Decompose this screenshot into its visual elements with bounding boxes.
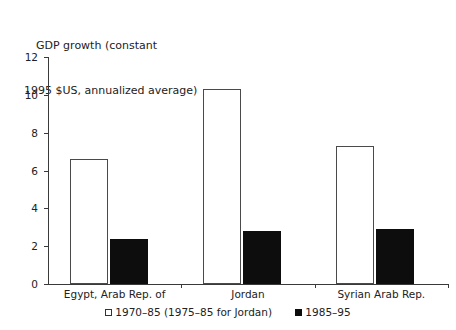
bar-0-0 (70, 159, 108, 284)
y-tick-4 (44, 208, 48, 209)
bar-1-1 (243, 231, 281, 284)
y-tick-10 (44, 95, 48, 96)
bar-0-1 (110, 239, 148, 284)
chart-title-line-1: GDP growth (constant (36, 38, 354, 53)
legend-item-0: 1970–85 (1975–85 for Jordan) (105, 306, 272, 318)
chart-legend: 1970–85 (1975–85 for Jordan) 1985–95 (0, 306, 456, 318)
bar-2-1 (376, 229, 414, 284)
legend-label-1: 1985–95 (305, 306, 350, 318)
y-tick-6 (44, 171, 48, 172)
legend-item-1: 1985–95 (295, 306, 350, 318)
category-label-2: Syrian Arab Rep. (337, 288, 425, 300)
y-tick-label-2: 2 (12, 240, 38, 252)
y-tick-12 (44, 57, 48, 58)
category-label-1: Jordan (231, 288, 264, 300)
y-tick-2 (44, 246, 48, 247)
y-tick-8 (44, 133, 48, 134)
x-separator-1 (315, 284, 316, 288)
legend-label-0: 1970–85 (1975–85 for Jordan) (115, 306, 272, 318)
y-tick-label-10: 10 (12, 89, 38, 101)
category-label-0: Egypt, Arab Rep. of (64, 288, 166, 300)
filled-square-icon (295, 309, 302, 316)
y-tick-label-4: 4 (12, 202, 38, 214)
y-tick-label-0: 0 (12, 278, 38, 290)
y-tick-0 (44, 284, 48, 285)
x-separator-2 (448, 284, 449, 288)
x-axis-line (48, 284, 448, 285)
y-tick-label-6: 6 (12, 165, 38, 177)
open-square-icon (105, 309, 112, 316)
y-axis-line (48, 57, 49, 284)
bar-1-0 (203, 89, 241, 284)
x-separator-0 (181, 284, 182, 288)
bar-2-0 (336, 146, 374, 284)
y-tick-label-8: 8 (12, 127, 38, 139)
gdp-growth-bar-chart: GDP growth (constant 1995 $US, annualize… (0, 0, 456, 330)
plot-area: 024681012 (48, 57, 448, 284)
y-tick-label-12: 12 (12, 51, 38, 63)
